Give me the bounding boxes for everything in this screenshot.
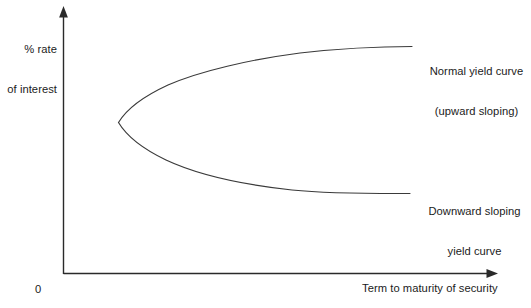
y-axis-arrowhead-icon <box>59 6 68 18</box>
normal-yield-curve-label-line1: Normal yield curve <box>424 65 529 78</box>
downward-yield-curve-path <box>119 123 411 194</box>
y-axis <box>59 6 68 274</box>
downward-yield-curve-label-line1: Downward sloping <box>422 205 527 218</box>
y-axis-label-line2: of interest <box>0 83 57 96</box>
downward-yield-curve-label-line2: yield curve <box>422 245 527 258</box>
origin-label: 0 <box>35 283 41 296</box>
normal-yield-curve-path <box>119 47 413 123</box>
normal-yield-curve-label: Normal yield curve (upward sloping) <box>424 38 529 145</box>
y-axis-label-line1: % rate <box>0 43 57 56</box>
normal-yield-curve-label-line2: (upward sloping) <box>424 105 529 118</box>
downward-yield-curve-label: Downward sloping yield curve <box>422 178 527 285</box>
y-axis-label: % rate of interest <box>0 16 57 123</box>
yield-curve-figure: % rate of interest Term to maturity of s… <box>0 0 531 308</box>
